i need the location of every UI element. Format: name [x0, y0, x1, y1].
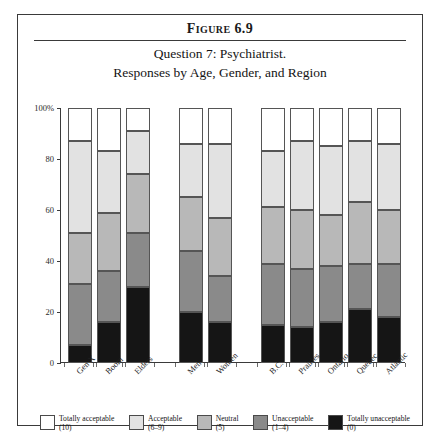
bar-segment [348, 202, 372, 263]
bar-segment [348, 264, 372, 310]
bar-segment [68, 141, 92, 233]
x-axis-tick [204, 363, 205, 367]
bar-segment [97, 213, 121, 272]
bar-segment [179, 144, 203, 198]
y-axis-tick-label: 0 [50, 358, 54, 368]
x-axis-tick [347, 363, 348, 367]
legend-swatch [253, 415, 268, 430]
legend-item: Acceptable(6–9) [129, 414, 182, 433]
figure-frame: Figure 6.9 Question 7: Psychiatrist. Res… [17, 14, 423, 426]
bar-segment [261, 207, 285, 263]
x-axis-tick [376, 363, 377, 367]
bar-elders [126, 108, 150, 363]
bar-segment [348, 108, 372, 141]
chart-legend: Totally acceptable(10)Acceptable(6–9)Neu… [40, 414, 410, 433]
legend-item: Neutral(5) [197, 414, 239, 433]
bar-segment [126, 174, 150, 233]
bar-segment [290, 269, 314, 328]
x-axis-tick [96, 363, 97, 367]
y-axis-tick [57, 363, 61, 364]
legend-label: Totally acceptable [59, 414, 114, 423]
bar-segment [319, 108, 343, 146]
x-axis-tick [257, 363, 258, 367]
bar-gen-x [68, 108, 92, 363]
figure-rule [34, 40, 406, 41]
bar-segment [208, 144, 232, 218]
legend-label: Acceptable [148, 414, 182, 423]
x-axis-tick [405, 363, 406, 367]
figure-subtitle-line2: Responses by Age, Gender, and Region [18, 65, 422, 81]
x-axis-tick [125, 363, 126, 367]
bar-segment [208, 218, 232, 277]
bar-segment [68, 284, 92, 345]
y-axis-line [60, 108, 61, 363]
legend-label: Neutral [216, 414, 239, 423]
bar-segment [97, 151, 121, 212]
bar-segment [179, 312, 203, 363]
legend-label: Unacceptable [272, 414, 313, 423]
y-axis-tick-label: 20 [46, 307, 55, 317]
bar-segment [261, 264, 285, 325]
legend-swatch [328, 415, 343, 430]
legend-label-block: Acceptable(6–9) [148, 414, 182, 433]
bar-segment [68, 233, 92, 284]
legend-label: Totally unacceptable [347, 414, 410, 423]
bar-segment [377, 144, 401, 210]
x-axis-tick [289, 363, 290, 367]
bar-segment [179, 251, 203, 312]
bar-ontario [319, 108, 343, 363]
legend-label-block: Unacceptable(1–4) [272, 414, 313, 433]
legend-range: (6–9) [148, 423, 182, 432]
bar-segment [261, 325, 285, 363]
bar-quebec [348, 108, 372, 363]
y-axis-tick [57, 159, 61, 160]
bar-segment [126, 131, 150, 174]
x-axis-tick [286, 363, 287, 367]
y-axis-tick-label: 80 [46, 154, 55, 164]
legend-range: (5) [216, 423, 239, 432]
bar-segment [179, 197, 203, 251]
figure-subtitle-line1: Question 7: Psychiatrist. [18, 46, 422, 62]
legend-item: Totally acceptable(10) [40, 414, 114, 433]
legend-item: Unacceptable(1–4) [253, 414, 313, 433]
bar-segment [126, 108, 150, 131]
bar-b-c [261, 108, 285, 363]
bar-men [179, 108, 203, 363]
legend-range: (1–4) [272, 423, 313, 432]
bar-segment [179, 108, 203, 144]
y-axis-tick-label: 60 [46, 205, 55, 215]
y-axis-tick [57, 210, 61, 211]
bar-women [208, 108, 232, 363]
bar-segment [290, 210, 314, 269]
bar-segment [319, 266, 343, 322]
x-axis-tick [236, 363, 237, 367]
y-axis-tick [57, 312, 61, 313]
bar-segment [97, 271, 121, 322]
bar-segment [97, 108, 121, 151]
bar-prairies [290, 108, 314, 363]
legend-label-block: Neutral(5) [216, 414, 239, 433]
bar-segment [377, 108, 401, 144]
bar-segment [208, 276, 232, 322]
legend-item: Totally unacceptable(0) [328, 414, 410, 433]
legend-label-block: Totally unacceptable(0) [347, 414, 410, 433]
bar-segment [319, 215, 343, 266]
figure-number: Figure 6.9 [18, 21, 422, 37]
legend-range: (0) [347, 423, 410, 432]
bar-segment [290, 141, 314, 210]
bar-segment [377, 264, 401, 318]
plot-area: 020406080100% Gen XBoomEldersMenWomenB.C… [60, 108, 405, 363]
bar-atlantic [377, 108, 401, 363]
x-axis-tick [64, 363, 65, 367]
bar-segment [126, 287, 150, 364]
bar-segment [348, 141, 372, 202]
y-axis-tick-label: 40 [46, 256, 55, 266]
x-axis-tick [175, 363, 176, 367]
bar-segment [126, 233, 150, 287]
bar-segment [261, 108, 285, 151]
bar-segment [290, 108, 314, 141]
legend-range: (10) [59, 423, 114, 432]
x-axis-tick [154, 363, 155, 367]
y-axis-tick-label: 100% [34, 103, 54, 113]
bar-segment [261, 151, 285, 207]
